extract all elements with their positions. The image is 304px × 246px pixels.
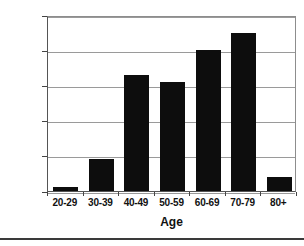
y-tick-mark [42,121,47,122]
bar [53,187,78,191]
y-tick-mark [42,16,47,17]
x-tick-mark [296,192,297,196]
x-tick-label: 50-59 [154,198,190,208]
bar-slot [196,17,221,191]
x-axis-title: Age [47,216,296,228]
bar [231,33,256,191]
bar-chart-figure: 010,00020,00030,00040,00050,000 20-2930-… [0,0,304,246]
x-tick-mark [260,192,261,196]
bar-slot [124,17,149,191]
x-tick-label: 60-69 [189,198,225,208]
x-tick-label: 80+ [260,198,296,208]
x-tick-mark [189,192,190,196]
bar [124,75,149,191]
bar-slot [231,17,256,191]
x-tick-mark [225,192,226,196]
bar [160,82,185,191]
x-tick-label: 30-39 [83,198,119,208]
plot-area [47,16,296,192]
gridline [48,193,295,194]
bar [267,177,292,191]
bar-slot [160,17,185,191]
x-tick-label: 40-49 [118,198,154,208]
x-tick-label: 20-29 [47,198,83,208]
bar [196,50,221,191]
bar-series [48,17,295,191]
bar-slot [89,17,114,191]
x-tick-mark [47,192,48,196]
bar-slot [53,17,78,191]
bar-slot [267,17,292,191]
y-tick-mark [42,51,47,52]
x-tick-mark [118,192,119,196]
bottom-rule-divider [0,238,304,240]
y-tick-mark [42,156,47,157]
x-tick-mark [83,192,84,196]
y-tick-mark [42,86,47,87]
x-tick-mark [154,192,155,196]
x-tick-label: 70-79 [225,198,261,208]
bar [89,159,114,191]
